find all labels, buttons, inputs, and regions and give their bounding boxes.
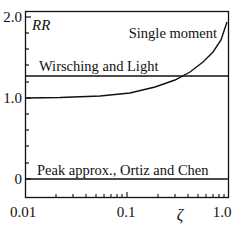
x-axis-label: ζ [177,206,185,224]
x-tick-0: 0.01 [10,204,36,220]
label-peak-approx: Peak approx., Ortiz and Chen [37,162,209,178]
chart: 2.0 1.0 0 0.01 0.1 1.0 RR ζ Wirsching an… [0,0,236,227]
x-tick-1: 0.1 [117,204,136,220]
y-axis-label: RR [31,17,50,33]
x-ticks [56,192,224,197]
y-tick-1: 1.0 [3,90,22,106]
y-tick-2: 2.0 [3,9,22,25]
x-tick-2: 1.0 [213,204,232,220]
label-wirsching-light: Wirsching and Light [39,58,158,74]
y-tick-0: 0 [15,171,23,187]
label-single-moment: Single moment [129,25,217,41]
